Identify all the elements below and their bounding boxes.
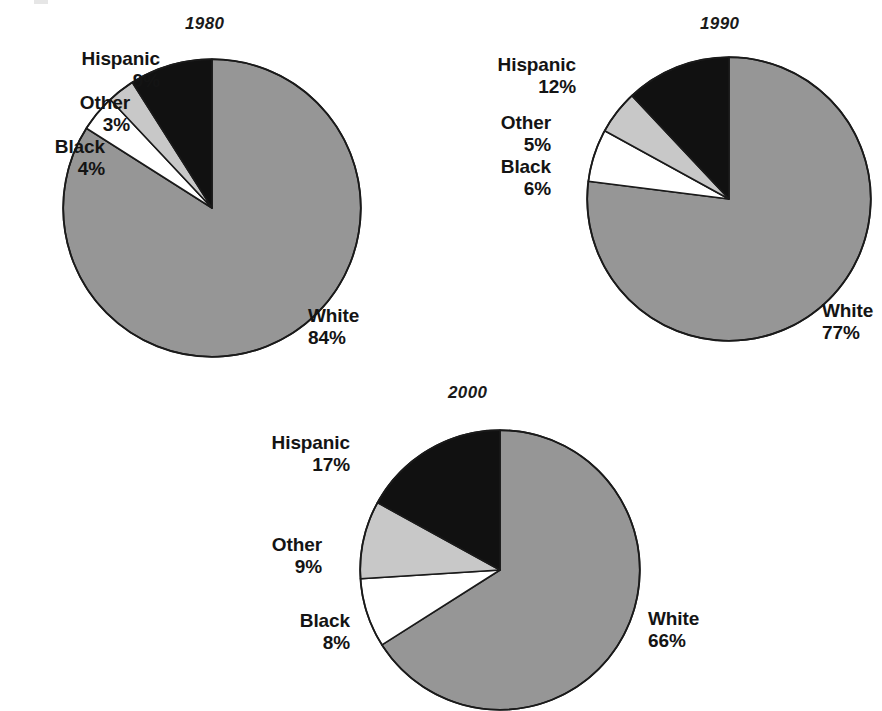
- pie-chart-1990: 1990 Hispanic 12% Other 5% Black 6% Whit…: [441, 0, 882, 380]
- label-other-1990: Other 5%: [441, 112, 551, 156]
- label-other-name: Other: [0, 92, 130, 114]
- label-white-value: 66%: [648, 630, 699, 652]
- label-black-name: Black: [220, 610, 350, 632]
- chart-title-2000: 2000: [448, 383, 487, 403]
- label-hispanic-2000: Hispanic 17%: [220, 432, 350, 476]
- pie-slices-1990: [587, 57, 871, 341]
- label-white-name: White: [648, 608, 699, 630]
- label-other-value: 9%: [220, 556, 322, 578]
- label-black-value: 4%: [0, 158, 105, 180]
- label-other-2000: Other 9%: [220, 534, 322, 578]
- label-white-name: White: [822, 300, 873, 322]
- label-other-value: 3%: [0, 114, 130, 136]
- label-hispanic-name: Hispanic: [0, 48, 160, 70]
- label-other-value: 5%: [441, 134, 551, 156]
- label-hispanic-1990: Hispanic 12%: [441, 54, 576, 98]
- label-hispanic-value: 12%: [441, 76, 576, 98]
- pie-slices-2000: [360, 430, 640, 710]
- pie-svg-2000: [359, 429, 641, 711]
- label-black-name: Black: [441, 156, 551, 178]
- label-hispanic-value: 9%: [0, 70, 160, 92]
- label-white-value: 77%: [822, 322, 873, 344]
- label-other-name: Other: [220, 534, 322, 556]
- label-hispanic-name: Hispanic: [220, 432, 350, 454]
- label-black-name: Black: [0, 136, 105, 158]
- label-hispanic-name: Hispanic: [441, 54, 576, 76]
- label-other-1980: Other 3%: [0, 92, 130, 136]
- label-black-1980: Black 4%: [0, 136, 105, 180]
- label-black-value: 8%: [220, 632, 350, 654]
- pie-chart-1980: 1980 Hispanic 9% Other 3% Black 4% White…: [0, 0, 441, 380]
- label-white-value: 84%: [308, 327, 359, 349]
- label-white-2000: White 66%: [648, 608, 699, 652]
- label-white-name: White: [308, 305, 359, 327]
- label-hispanic-value: 17%: [220, 454, 350, 476]
- label-black-1990: Black 6%: [441, 156, 551, 200]
- chart-title-1990: 1990: [700, 14, 739, 34]
- label-black-value: 6%: [441, 178, 551, 200]
- label-white-1990: White 77%: [822, 300, 873, 344]
- label-other-name: Other: [441, 112, 551, 134]
- label-white-1980: White 84%: [308, 305, 359, 349]
- label-black-2000: Black 8%: [220, 610, 350, 654]
- pie-chart-2000: 2000 Hispanic 17% Other 9% Black 8% Whit…: [220, 370, 780, 710]
- label-hispanic-1980: Hispanic 9%: [0, 48, 160, 92]
- chart-title-1980: 1980: [185, 14, 224, 34]
